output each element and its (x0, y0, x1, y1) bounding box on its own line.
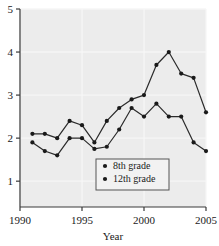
legend-marker-icon (103, 177, 107, 181)
chart-legend: 8th grade12th grade (96, 159, 169, 190)
data-point-marker (43, 149, 47, 153)
data-point-marker (80, 136, 84, 140)
legend-label: 12th grade (113, 173, 156, 184)
data-point-marker (167, 115, 171, 119)
data-point-marker (105, 145, 109, 149)
data-point-marker (92, 140, 96, 144)
data-point-marker (68, 136, 72, 140)
data-point-marker (117, 127, 121, 131)
data-point-marker (179, 71, 183, 75)
y-axis-tick-label: 3 (8, 89, 14, 101)
data-point-marker (204, 110, 208, 114)
y-axis-tick-label: 4 (8, 46, 14, 58)
line-chart: 12345 1990199520002005 8th grade12th gra… (0, 0, 219, 246)
data-point-marker (154, 102, 158, 106)
data-point-marker (117, 106, 121, 110)
legend-marker-icon (103, 164, 107, 168)
x-axis-tick-label: 1990 (9, 214, 32, 226)
data-point-marker (142, 93, 146, 97)
x-axis-tick-label: 2000 (133, 214, 156, 226)
data-point-marker (68, 119, 72, 123)
y-axis-tick-labels: 12345 (8, 3, 14, 187)
data-point-marker (55, 136, 59, 140)
x-axis-tick-label: 1995 (71, 214, 94, 226)
data-point-marker (55, 153, 59, 157)
y-axis-tick-label: 5 (8, 3, 14, 15)
data-point-marker (154, 63, 158, 67)
data-point-marker (204, 149, 208, 153)
data-point-marker (130, 106, 134, 110)
data-point-marker (130, 97, 134, 101)
data-point-marker (80, 123, 84, 127)
data-point-marker (43, 132, 47, 136)
data-point-marker (167, 50, 171, 54)
data-point-marker (179, 115, 183, 119)
y-axis-tick-label: 2 (8, 132, 14, 144)
chart-container: 12345 1990199520002005 8th grade12th gra… (0, 0, 219, 246)
legend-label: 8th grade (113, 160, 151, 171)
data-point-marker (142, 115, 146, 119)
data-point-marker (30, 132, 34, 136)
data-point-marker (192, 76, 196, 80)
x-axis-tick-label: 2005 (195, 214, 218, 226)
data-point-marker (30, 140, 34, 144)
data-point-marker (92, 147, 96, 151)
x-axis-tick-labels: 1990199520002005 (9, 214, 218, 226)
data-point-marker (192, 140, 196, 144)
x-axis-title: Year (103, 230, 124, 242)
data-point-marker (105, 119, 109, 123)
y-axis-tick-label: 1 (8, 175, 14, 187)
